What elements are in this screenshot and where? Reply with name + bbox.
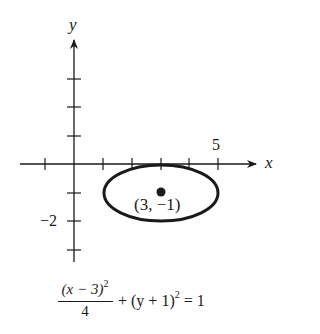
equation-denominator: 4 bbox=[56, 303, 114, 320]
x-tick-label-5: 5 bbox=[212, 137, 220, 153]
x-axis-label: x bbox=[265, 154, 273, 171]
equation-numerator: (x − 3)2 bbox=[56, 281, 114, 298]
equation: (x − 3)2 4 + (y + 1)2 = 1 bbox=[56, 281, 256, 321]
fraction-bar bbox=[58, 301, 113, 302]
center-label: (3, −1) bbox=[134, 196, 180, 213]
y-axis-label: y bbox=[69, 16, 77, 33]
y-tick-label-neg2: −2 bbox=[40, 213, 57, 229]
equation-rest: + (y + 1)2 = 1 bbox=[118, 292, 205, 310]
